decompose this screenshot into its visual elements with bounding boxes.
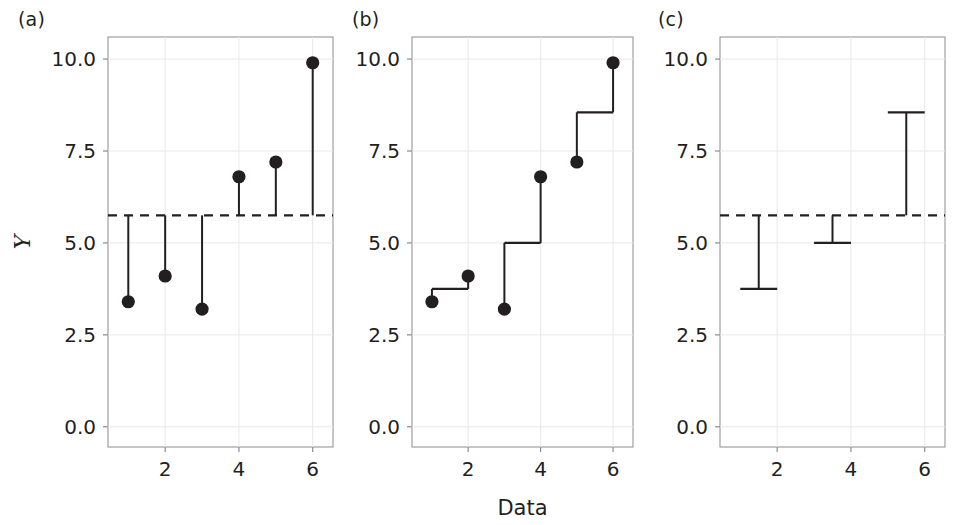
y-tick-label: 5.0 [64, 231, 96, 255]
x-tick-label: 2 [159, 457, 172, 481]
data-point [606, 56, 619, 69]
y-tick-label: 7.5 [64, 139, 96, 163]
y-tick-label: 7.5 [676, 139, 708, 163]
data-point [462, 269, 475, 282]
x-tick-label: 4 [233, 457, 246, 481]
plot-frame [108, 37, 333, 447]
y-tick-label: 7.5 [368, 139, 400, 163]
panel-c: (c) 0.02.55.07.510.0246 [640, 0, 972, 525]
x-tick-label: 6 [918, 457, 931, 481]
x-tick-label: 6 [306, 457, 319, 481]
data-point [195, 303, 208, 316]
x-axis-title: Data [497, 496, 547, 520]
y-tick-label: 2.5 [368, 323, 400, 347]
y-tick-label: 5.0 [368, 231, 400, 255]
data-point [534, 170, 547, 183]
data-point [159, 269, 172, 282]
x-tick-label: 4 [845, 457, 858, 481]
data-point [306, 56, 319, 69]
y-tick-label: 10.0 [663, 47, 708, 71]
y-tick-label: 5.0 [676, 231, 708, 255]
panel-b-plot: 0.02.55.07.510.0246Data [340, 0, 640, 525]
panel-a: (a) 0.02.55.07.510.0246Y [0, 0, 340, 525]
y-tick-label: 0.0 [64, 415, 96, 439]
panel-b: (b) 0.02.55.07.510.0246Data [340, 0, 640, 525]
data-point [570, 155, 583, 168]
panel-a-plot: 0.02.55.07.510.0246Y [0, 0, 340, 525]
y-tick-label: 10.0 [51, 47, 96, 71]
y-tick-label: 0.0 [368, 415, 400, 439]
y-axis-title: Y [10, 232, 35, 249]
data-point [122, 295, 135, 308]
y-tick-label: 2.5 [676, 323, 708, 347]
x-tick-label: 4 [534, 457, 547, 481]
y-tick-label: 10.0 [355, 47, 400, 71]
y-tick-label: 0.0 [676, 415, 708, 439]
data-point [425, 295, 438, 308]
data-point [232, 170, 245, 183]
x-tick-label: 2 [462, 457, 475, 481]
data-point [269, 155, 282, 168]
panel-c-plot: 0.02.55.07.510.0246 [640, 0, 972, 525]
figure-root: (a) 0.02.55.07.510.0246Y (b) 0.02.55.07.… [0, 0, 972, 525]
x-tick-label: 6 [607, 457, 620, 481]
x-tick-label: 2 [771, 457, 784, 481]
y-tick-label: 2.5 [64, 323, 96, 347]
data-point [498, 303, 511, 316]
